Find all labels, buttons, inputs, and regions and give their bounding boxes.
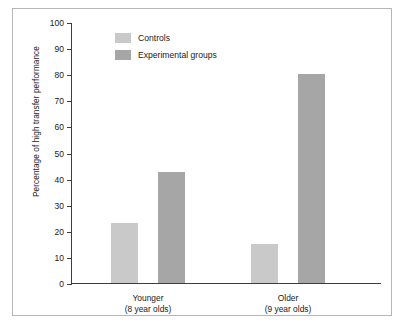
y-tick-mark bbox=[67, 206, 72, 207]
y-tick-label: 70 bbox=[55, 96, 64, 106]
y-tick-mark bbox=[67, 75, 72, 76]
chart-legend: ControlsExperimental groups bbox=[115, 31, 217, 65]
legend-item: Controls bbox=[115, 31, 217, 45]
y-tick-label: 40 bbox=[55, 175, 64, 185]
y-axis-title: Percentage of high transfer performance bbox=[32, 17, 41, 227]
y-tick-mark bbox=[67, 180, 72, 181]
y-tick-mark bbox=[67, 101, 72, 102]
legend-swatch-icon bbox=[115, 33, 131, 43]
x-category-label-line: (9 year olds) bbox=[238, 304, 338, 315]
y-tick-mark bbox=[67, 127, 72, 128]
x-category-label-line: Younger bbox=[98, 293, 198, 304]
y-tick-label: 100 bbox=[50, 18, 64, 28]
x-axis-line bbox=[71, 283, 381, 284]
bar-controls-1 bbox=[251, 244, 278, 283]
y-tick-label: 10 bbox=[55, 253, 64, 263]
plot-area: 1009080706050403020100 ControlsExperimen… bbox=[71, 23, 369, 284]
y-tick-mark bbox=[67, 232, 72, 233]
legend-item: Experimental groups bbox=[115, 48, 217, 62]
y-tick-label: 0 bbox=[59, 279, 64, 289]
bar-controls-0 bbox=[111, 223, 138, 283]
bar-experimental-groups-0 bbox=[158, 172, 185, 283]
y-tick-label: 50 bbox=[55, 149, 64, 159]
legend-label: Experimental groups bbox=[138, 50, 217, 60]
y-tick-mark bbox=[67, 258, 72, 259]
y-tick-label: 90 bbox=[55, 44, 64, 54]
y-tick-mark bbox=[67, 49, 72, 50]
x-category-label: Younger(8 year olds) bbox=[98, 293, 198, 315]
y-tick-label: 60 bbox=[55, 122, 64, 132]
bar-experimental-groups-1 bbox=[298, 74, 325, 283]
y-tick-label: 80 bbox=[55, 70, 64, 80]
y-tick-label: 20 bbox=[55, 227, 64, 237]
y-tick-mark bbox=[67, 284, 72, 285]
x-category-label: Older(9 year olds) bbox=[238, 293, 338, 315]
figure-frame: Percentage of high transfer performance … bbox=[12, 8, 392, 316]
legend-label: Controls bbox=[138, 33, 170, 43]
x-category-label-line: (8 year olds) bbox=[98, 304, 198, 315]
y-tick-mark bbox=[67, 154, 72, 155]
legend-swatch-icon bbox=[115, 50, 131, 60]
y-tick-label: 30 bbox=[55, 201, 64, 211]
y-tick-mark bbox=[67, 23, 72, 24]
x-category-label-line: Older bbox=[238, 293, 338, 304]
